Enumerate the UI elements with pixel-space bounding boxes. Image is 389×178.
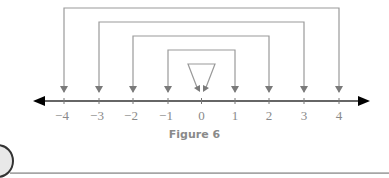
number-axis bbox=[33, 96, 370, 106]
tick-label: −3 bbox=[90, 108, 104, 123]
tick-label: 1 bbox=[232, 108, 239, 123]
left-arrowhead-icon bbox=[33, 96, 45, 106]
tick-label: 3 bbox=[301, 108, 308, 123]
tick-label: 2 bbox=[266, 108, 273, 123]
connector-pair-3 bbox=[95, 22, 308, 93]
tick-label: −2 bbox=[124, 108, 138, 123]
right-arrowhead-icon bbox=[358, 96, 370, 106]
number-line-diagram: −4 −3 −2 −1 0 1 2 3 4 bbox=[0, 0, 389, 178]
connector-pair-1 bbox=[164, 50, 239, 93]
page-divider bbox=[10, 172, 389, 174]
tick-label: −1 bbox=[159, 108, 173, 123]
figure-caption: Figure 6 bbox=[0, 128, 389, 141]
tick-labels: −4 −3 −2 −1 0 1 2 3 4 bbox=[55, 108, 343, 123]
tick-label: −4 bbox=[55, 108, 69, 123]
tick-label: 4 bbox=[336, 108, 343, 123]
tick-label: 0 bbox=[198, 108, 205, 123]
connector-zero-triangle bbox=[188, 64, 215, 92]
